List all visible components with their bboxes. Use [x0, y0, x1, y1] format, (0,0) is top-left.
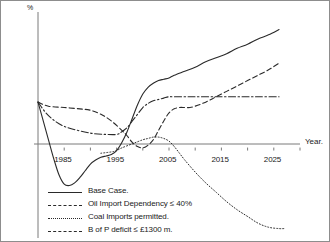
x-axis-tick-label: 2015: [211, 155, 228, 164]
series-line: [38, 97, 279, 135]
legend-line-sample-dashed: [48, 231, 82, 234]
x-axis-tick-label: 2025: [264, 155, 281, 164]
x-axis-tick-label: 2005: [159, 155, 176, 164]
legend-label: Base Case.: [88, 186, 128, 195]
legend-line-sample-solid: [48, 192, 82, 195]
legend-label: Coal Imports permitted.: [88, 212, 169, 221]
legend-label: Oil Import Dependency ≤ 40%: [88, 199, 192, 208]
chart-container: % 1009080706050403020100-10-20-30-40-50-…: [0, 0, 330, 242]
legend-label: B of P deficit ≤ £1300 m.: [88, 225, 172, 234]
series-line: [38, 63, 279, 148]
x-axis-title: Year.: [305, 137, 323, 146]
legend-line-sample-dashdot: [48, 205, 82, 208]
legend-line-sample-dotted: [48, 218, 82, 221]
x-axis-ticks: [64, 148, 300, 151]
x-axis-tick-label: 1985: [54, 155, 71, 164]
x-axis-tick-label: 1995: [107, 155, 124, 164]
